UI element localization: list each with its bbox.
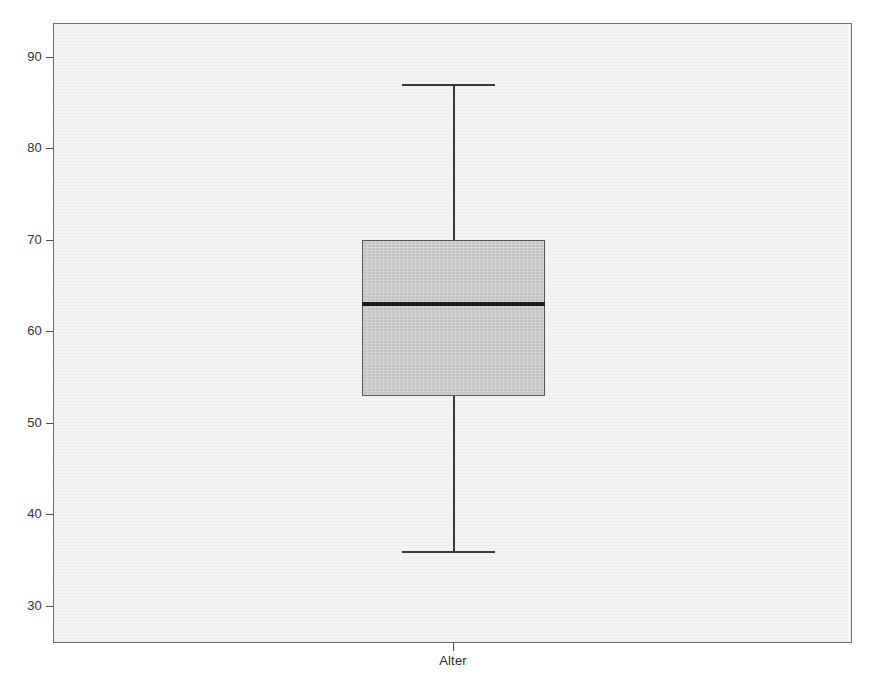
lower-whisker-line	[453, 396, 455, 552]
x-tick-label-alter: Alter	[393, 653, 513, 668]
boxplot-chart: 90 80 70 60 50 40 30 Alter	[0, 0, 879, 689]
median-line	[362, 302, 545, 306]
boxplot-series-alter	[0, 0, 879, 689]
x-tick-mark-alter	[453, 643, 454, 651]
lower-whisker-cap	[402, 551, 495, 553]
upper-whisker-line	[453, 84, 455, 240]
box-texture-overlay	[363, 241, 544, 395]
box-iqr-rect	[362, 240, 545, 396]
upper-whisker-cap	[402, 84, 495, 86]
